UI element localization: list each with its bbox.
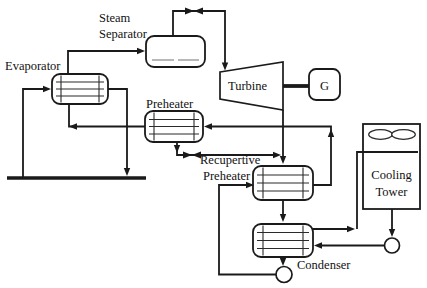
arrow-reinjection [124,168,130,176]
drain-valve-icon [183,152,201,159]
arrow-preheater-drain [174,145,180,153]
evaporator-block [52,74,108,104]
cooling-pump-icon [385,238,400,253]
condenser-block [253,224,313,257]
feed-pump-icon [276,267,292,283]
recuperative-preheater-label-line2: Preheater [203,169,251,183]
arrow-into-separator [137,48,145,54]
arrow-to-tower-riser [347,226,355,232]
recuperative-preheater-label-line1: Recupertive [200,153,261,167]
arrow-to-evaporator-bottom [69,123,77,129]
condenser-label: Condenser [297,258,351,272]
arrow-into-feed-pump [280,258,286,266]
recuperative-preheater-block [253,166,313,200]
arrow-into-turbine [222,63,228,71]
pipes [23,11,418,275]
pipe-brine-inlet [23,89,44,177]
pipe-preheater-to-evaporator [69,105,145,127]
preheater-label: Preheater [146,97,194,111]
arrow-into-preheater [204,123,212,129]
turbine-label: Turbine [228,79,268,93]
arrow-into-evaporator [43,86,51,92]
steam-separator-label-line2: Separator [99,27,148,41]
process-flow-diagram: Steam Separator Evaporator Preheater Tur… [0,0,427,288]
cooling-tower-label-line2: Tower [376,185,409,199]
steam-separator-vessel [146,36,205,67]
arrow-into-condenser-top [280,214,286,222]
pipe-evaporator-to-separator [68,51,138,74]
steam-separator-label-line1: Steam [99,11,131,25]
preheater-block [145,111,203,142]
generator-label: G [320,79,329,93]
arrow-into-condenser-right [314,242,322,248]
cooling-tower-label-line1: Cooling [371,168,412,182]
arrow-drain-join [273,152,281,158]
evaporator-label: Evaporator [5,59,61,73]
steam-valve-icon [185,8,203,15]
arrow-into-cooling-pump [389,229,395,237]
arrow-riser-up [328,129,334,137]
arrow-into-recuperator-top [280,156,286,164]
pipe-brine-reinjection [108,89,127,170]
diagram-canvas: Steam Separator Evaporator Preheater Tur… [0,0,427,288]
